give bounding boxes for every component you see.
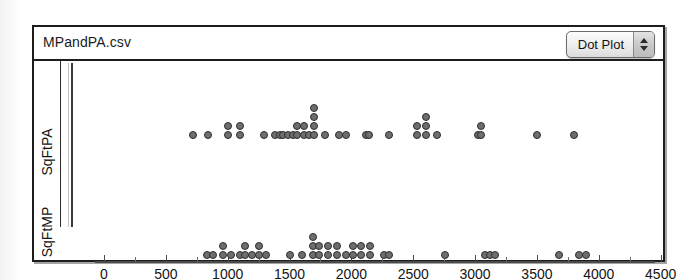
- data-point[interactable]: [224, 131, 232, 139]
- x-tick-major: [599, 255, 600, 262]
- data-point[interactable]: [315, 251, 323, 259]
- x-tick-label: 1500: [274, 266, 305, 280]
- data-point[interactable]: [224, 122, 232, 130]
- data-point[interactable]: [324, 242, 332, 250]
- data-point[interactable]: [219, 242, 227, 250]
- data-point[interactable]: [333, 251, 341, 259]
- data-point[interactable]: [241, 242, 249, 250]
- page-edge-shadow: [0, 0, 30, 280]
- data-point[interactable]: [477, 131, 485, 139]
- plot-type-stepper[interactable]: [633, 32, 654, 57]
- data-point[interactable]: [342, 131, 350, 139]
- data-point[interactable]: [441, 251, 449, 259]
- data-point[interactable]: [422, 131, 430, 139]
- data-point[interactable]: [366, 242, 374, 250]
- data-point[interactable]: [349, 242, 357, 250]
- plot-type-label: Dot Plot: [567, 32, 633, 57]
- data-point[interactable]: [385, 131, 393, 139]
- data-point[interactable]: [309, 233, 317, 241]
- data-point[interactable]: [357, 242, 365, 250]
- x-tick-label: 1000: [212, 266, 243, 280]
- data-point[interactable]: [422, 113, 430, 121]
- data-point[interactable]: [324, 251, 332, 259]
- data-point[interactable]: [209, 251, 217, 259]
- data-point[interactable]: [433, 131, 441, 139]
- data-point[interactable]: [310, 122, 318, 130]
- data-point[interactable]: [300, 122, 308, 130]
- data-point[interactable]: [477, 122, 485, 130]
- data-point[interactable]: [310, 131, 318, 139]
- data-point[interactable]: [236, 122, 244, 130]
- x-tick-major: [475, 255, 476, 262]
- x-tick-major: [104, 255, 105, 262]
- data-point[interactable]: [321, 131, 329, 139]
- x-tick-major: [537, 255, 538, 262]
- data-point[interactable]: [365, 131, 373, 139]
- data-point[interactable]: [570, 131, 578, 139]
- data-point[interactable]: [366, 251, 374, 259]
- x-tick-major: [166, 255, 167, 262]
- triangle-up-icon[interactable]: [640, 38, 648, 43]
- data-point[interactable]: [236, 131, 244, 139]
- data-point[interactable]: [204, 131, 212, 139]
- data-point[interactable]: [255, 242, 263, 250]
- data-point[interactable]: [227, 251, 235, 259]
- data-point[interactable]: [286, 251, 294, 259]
- x-tick-minor: [135, 257, 136, 262]
- plot-canvas[interactable]: 050010001500200025003000350040004500: [61, 61, 661, 227]
- x-tick-label: 500: [154, 266, 177, 280]
- x-tick-label: 2000: [336, 266, 367, 280]
- data-point[interactable]: [189, 131, 197, 139]
- x-tick-label: 2500: [398, 266, 429, 280]
- x-tick-label: 0: [100, 266, 108, 280]
- x-tick-label: 4000: [583, 266, 614, 280]
- triangle-down-icon[interactable]: [640, 46, 648, 51]
- x-tick-label: 3500: [521, 266, 552, 280]
- plot-type-dropdown[interactable]: Dot Plot: [566, 31, 655, 58]
- x-tick-minor: [630, 257, 631, 262]
- page-title: MPandPA.csv: [43, 34, 131, 50]
- data-point[interactable]: [422, 122, 430, 130]
- x-tick-major: [661, 255, 662, 262]
- data-point[interactable]: [555, 251, 563, 259]
- data-point[interactable]: [262, 251, 270, 259]
- x-tick-minor: [568, 257, 569, 262]
- data-point[interactable]: [491, 251, 499, 259]
- data-point[interactable]: [582, 251, 590, 259]
- y-axis-line: [71, 63, 73, 227]
- x-tick-minor: [197, 257, 198, 262]
- x-tick-label: 4500: [645, 266, 676, 280]
- data-point[interactable]: [333, 242, 341, 250]
- dot-plot-window: MPandPA.csv Dot Plot SqFtPA SqFtMP 05001…: [32, 25, 665, 262]
- data-point[interactable]: [260, 131, 268, 139]
- x-tick-minor: [506, 257, 507, 262]
- data-point[interactable]: [219, 251, 227, 259]
- data-point[interactable]: [310, 113, 318, 121]
- x-tick-major: [413, 255, 414, 262]
- window-title-bar: MPandPA.csv Dot Plot: [34, 27, 663, 61]
- data-point[interactable]: [385, 251, 393, 259]
- x-axis-line: [95, 261, 655, 263]
- data-point[interactable]: [298, 251, 306, 259]
- axis-group-label-sqftmp: SqFtMP: [39, 182, 55, 280]
- plot-body: SqFtPA SqFtMP 05001000150020002500300035…: [34, 61, 663, 260]
- data-point[interactable]: [349, 251, 357, 259]
- data-point[interactable]: [413, 122, 421, 130]
- x-tick-label: 3000: [460, 266, 491, 280]
- data-point[interactable]: [315, 242, 323, 250]
- y-axis-guide: [68, 63, 69, 227]
- data-point[interactable]: [357, 251, 365, 259]
- data-point[interactable]: [413, 131, 421, 139]
- data-point[interactable]: [310, 104, 318, 112]
- data-point[interactable]: [533, 131, 541, 139]
